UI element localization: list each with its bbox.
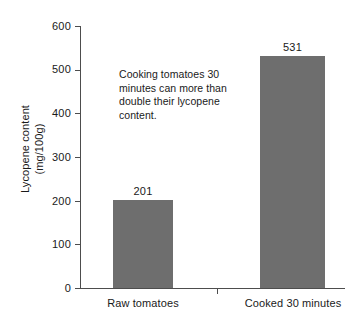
y-axis-line (80, 26, 81, 288)
y-tick-label-300: 300 (11, 152, 71, 163)
bar-cooked-30-minutes[interactable] (260, 56, 325, 288)
chart-annotation-line-4: content. (119, 109, 251, 123)
y-tick-label-0: 0 (11, 283, 71, 294)
y-tick-label-500: 500 (11, 64, 71, 75)
bar-chart-figure: Lycopene content (mg/100g) 600 500 400 3… (0, 0, 360, 335)
x-tick-mark-mid (217, 289, 218, 294)
bar-raw-tomatoes[interactable] (113, 200, 173, 288)
y-tick-label-600: 600 (11, 21, 71, 32)
x-category-label-cooked-30-minutes: Cooked 30 minutes (232, 297, 354, 310)
chart-annotation-line-1: Cooking tomatoes 30 (119, 68, 251, 82)
chart-annotation-line-3: double their lycopene (119, 95, 251, 109)
chart-annotation: Cooking tomatoes 30 minutes can more tha… (119, 68, 251, 122)
chart-annotation-line-2: minutes can more than (119, 82, 251, 96)
x-category-label-raw-tomatoes: Raw tomatoes (93, 297, 193, 310)
y-tick-label-100: 100 (11, 239, 71, 250)
bar-value-raw-tomatoes: 201 (113, 186, 173, 197)
y-tick-label-200: 200 (11, 196, 71, 207)
bar-value-cooked-30-minutes: 531 (260, 42, 325, 53)
x-axis-line (80, 288, 345, 289)
y-tick-label-400: 400 (11, 108, 71, 119)
